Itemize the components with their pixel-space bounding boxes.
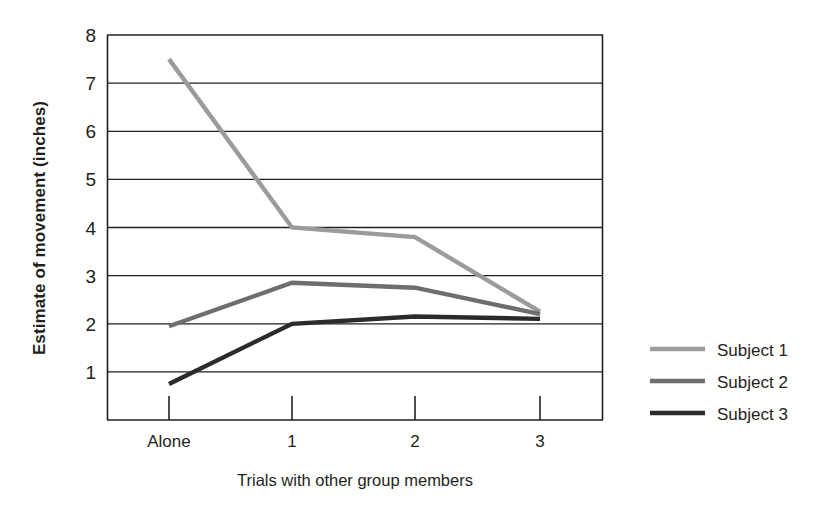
legend: Subject 1 Subject 2 Subject 3 bbox=[650, 341, 788, 424]
chart-figure: 8 7 6 5 4 3 2 1 Alone 1 2 3 Estimate of … bbox=[0, 0, 823, 506]
y-axis-title: Estimate of movement (inches) bbox=[30, 101, 49, 355]
y-tick-label-6: 6 bbox=[85, 121, 96, 142]
y-tick-label-3: 3 bbox=[85, 266, 96, 287]
x-axis-title: Trials with other group members bbox=[237, 471, 473, 489]
x-tick-label-3: 3 bbox=[535, 432, 544, 451]
legend-label-subject-3: Subject 3 bbox=[717, 405, 788, 424]
y-tick-label-4: 4 bbox=[85, 218, 96, 239]
line-chart: 8 7 6 5 4 3 2 1 Alone 1 2 3 Estimate of … bbox=[0, 0, 823, 506]
y-tick-label-8: 8 bbox=[85, 25, 96, 46]
legend-label-subject-1: Subject 1 bbox=[717, 341, 788, 360]
y-tick-label-7: 7 bbox=[85, 73, 96, 94]
legend-label-subject-2: Subject 2 bbox=[717, 373, 788, 392]
x-tick-labels: Alone 1 2 3 bbox=[147, 432, 544, 451]
y-tick-label-2: 2 bbox=[85, 314, 96, 335]
x-tick-label-2: 2 bbox=[410, 432, 419, 451]
y-tick-label-5: 5 bbox=[85, 169, 96, 190]
y-tick-labels: 8 7 6 5 4 3 2 1 bbox=[85, 25, 96, 383]
y-tick-label-1: 1 bbox=[85, 362, 96, 383]
x-tick-label-alone: Alone bbox=[147, 432, 190, 451]
x-tick-label-1: 1 bbox=[287, 432, 296, 451]
